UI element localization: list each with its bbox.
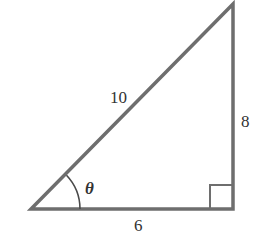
right-triangle-diagram: 10 8 6 θ (0, 0, 259, 249)
adjacent-label: 6 (134, 216, 143, 235)
right-angle-marker (210, 185, 233, 209)
angle-label: θ (85, 179, 94, 198)
angle-arc (67, 175, 81, 209)
triangle (31, 4, 233, 209)
hypotenuse-label: 10 (110, 88, 127, 107)
opposite-label: 8 (241, 112, 250, 131)
